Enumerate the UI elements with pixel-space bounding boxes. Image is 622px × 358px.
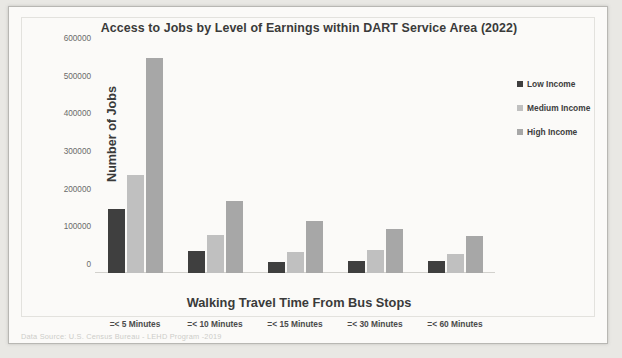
bar-group	[175, 47, 255, 273]
legend-swatch-icon	[517, 129, 523, 135]
bar-high	[466, 236, 483, 273]
legend-label: High Income	[527, 127, 577, 137]
chart-title: Access to Jobs by Level of Earnings with…	[9, 21, 609, 35]
chart-page: Access to Jobs by Level of Earnings with…	[0, 0, 622, 358]
x-tick-label: =< 60 Minutes	[415, 319, 495, 329]
bar-low	[188, 251, 205, 273]
bar-low	[428, 261, 445, 273]
bar-high	[386, 229, 403, 273]
y-tick-label: 100000	[27, 222, 91, 231]
bar-group	[95, 47, 175, 273]
bar-low	[348, 261, 365, 273]
bar-group	[415, 47, 495, 273]
bar-low	[108, 209, 125, 273]
x-tick-label: =< 5 Minutes	[95, 319, 175, 329]
source-note: Data Source: U.S. Census Bureau - LEHD P…	[21, 332, 222, 341]
bar-med	[287, 252, 304, 273]
chart-legend: Low IncomeMedium IncomeHigh Income	[517, 79, 609, 151]
bar-high	[226, 201, 243, 273]
legend-label: Low Income	[527, 79, 575, 89]
x-tick-label: =< 10 Minutes	[175, 319, 255, 329]
y-tick-label: 0	[27, 260, 91, 269]
bar-high	[146, 58, 163, 273]
y-tick-label: 300000	[27, 147, 91, 156]
legend-swatch-icon	[517, 105, 523, 111]
legend-label: Medium Income	[527, 103, 590, 113]
bar-high	[306, 221, 323, 273]
y-tick-label: 200000	[27, 184, 91, 193]
legend-swatch-icon	[517, 81, 523, 87]
bar-med	[207, 235, 224, 273]
bar-med	[447, 254, 464, 273]
bar-med	[127, 175, 144, 273]
x-tick-label: =< 30 Minutes	[335, 319, 415, 329]
x-tick-label: =< 15 Minutes	[255, 319, 335, 329]
bar-med	[367, 250, 384, 273]
bar-low	[268, 262, 285, 273]
bar-group	[255, 47, 335, 273]
plot-area: Number of Jobs 0100000200000300000400000…	[95, 47, 495, 273]
paper-sheet: Access to Jobs by Level of Earnings with…	[8, 6, 608, 344]
bar-group	[335, 47, 415, 273]
y-tick-label: 500000	[27, 71, 91, 80]
legend-item: Low Income	[517, 79, 609, 89]
x-axis-title: Walking Travel Time From Bus Stops	[69, 295, 529, 310]
legend-item: Medium Income	[517, 103, 609, 113]
legend-item: High Income	[517, 127, 609, 137]
y-tick-label: 400000	[27, 109, 91, 118]
y-tick-label: 600000	[27, 34, 91, 43]
